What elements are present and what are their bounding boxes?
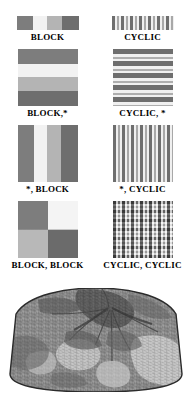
swatch-caption: BLOCK,*: [27, 108, 68, 119]
pattern-grid: BLOCK CYCLIC BLOCK,* CYCLIC, * *, BLOC: [0, 0, 190, 271]
pattern-cell-cyclic-star: CYCLIC, *: [95, 43, 190, 119]
swatch-caption: BLOCK, BLOCK: [12, 260, 84, 271]
swatch-block: [17, 16, 79, 30]
swatch-cyclic-star: [113, 49, 173, 106]
swatch-caption: *, BLOCK: [26, 184, 69, 195]
swatch-cyclic-cyclic: [113, 201, 173, 258]
swatch-caption: CYCLIC: [124, 32, 161, 43]
pattern-row: BLOCK,* CYCLIC, *: [0, 43, 190, 119]
swatch-block-star: [18, 49, 78, 106]
pattern-cell-star-block: *, BLOCK: [0, 119, 95, 195]
swatch-star-block: [18, 125, 78, 182]
swatch-star-cyclic: [113, 125, 173, 182]
swatch-caption: CYCLIC, CYCLIC: [103, 260, 181, 271]
pattern-cell-block-star: BLOCK,*: [0, 43, 95, 119]
pattern-cell-cyclic: CYCLIC: [95, 0, 190, 43]
micrograph-image: [8, 288, 184, 392]
swatch-block-block: [18, 201, 78, 258]
micrograph-body: [8, 288, 184, 392]
swatch-cyclic: [112, 16, 174, 30]
pattern-cell-block-block: BLOCK, BLOCK: [0, 195, 95, 271]
pattern-row: *, BLOCK *, CYCLIC: [0, 119, 190, 195]
pattern-cell-star-cyclic: *, CYCLIC: [95, 119, 190, 195]
swatch-caption: CYCLIC, *: [119, 108, 165, 119]
pattern-row: BLOCK CYCLIC: [0, 0, 190, 43]
figure-panel: BLOCK CYCLIC BLOCK,* CYCLIC, * *, BLOC: [0, 0, 190, 395]
micrograph-svg: [8, 288, 184, 392]
pattern-row: BLOCK, BLOCK CYCLIC, CYCLIC: [0, 195, 190, 271]
swatch-caption: *, CYCLIC: [119, 184, 165, 195]
pattern-cell-cyclic-cyclic: CYCLIC, CYCLIC: [95, 195, 190, 271]
swatch-caption: BLOCK: [31, 32, 65, 43]
pattern-cell-block: BLOCK: [0, 0, 95, 43]
